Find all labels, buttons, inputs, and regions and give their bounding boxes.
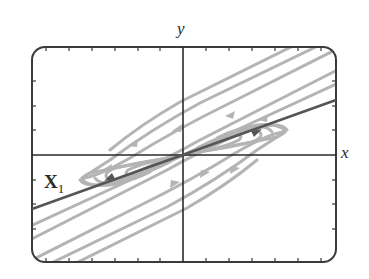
- y-axis-label: y: [177, 19, 185, 39]
- eigenvector-label-main: X: [44, 171, 58, 192]
- eigenvector-label-sub: 1: [58, 181, 65, 196]
- arrow-icon: [200, 170, 210, 178]
- phase-portrait: [0, 0, 369, 279]
- arrow-icon: [128, 139, 138, 147]
- arrow-icon: [225, 111, 235, 119]
- arrow-icon: [172, 124, 182, 132]
- eigenvector-label: X1: [44, 171, 64, 197]
- x-axis-label: x: [341, 143, 349, 163]
